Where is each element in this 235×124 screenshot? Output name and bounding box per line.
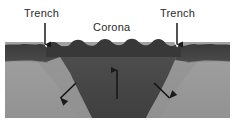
corona-label: Corona <box>93 22 130 33</box>
corona-crest <box>46 39 181 57</box>
trench-left-label: Trench <box>24 8 59 19</box>
crust-band-right <box>175 44 230 62</box>
corona-trench-diagram: Trench Corona Trench <box>0 0 235 124</box>
trench-right-label: Trench <box>160 8 195 19</box>
